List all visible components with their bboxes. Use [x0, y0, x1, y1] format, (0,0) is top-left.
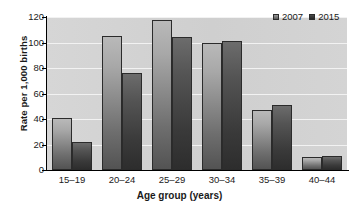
- y-axis-tick-label: 80: [20, 63, 44, 73]
- x-axis-tick-label: 35–39: [247, 175, 297, 185]
- y-axis-tick-mark: [42, 170, 46, 171]
- bar-2007-25-29: [152, 20, 172, 170]
- y-axis-tick-mark: [42, 145, 46, 146]
- y-axis-tick-mark: [42, 17, 46, 18]
- bar-group: [202, 17, 242, 170]
- legend-label: 2007: [282, 12, 303, 22]
- x-axis-tick-label: 40–44: [297, 175, 347, 185]
- x-axis-tick-label: 15–19: [47, 175, 97, 185]
- bars-layer: [47, 17, 347, 170]
- bar-2007-40-44: [302, 157, 322, 170]
- y-axis-tick-label: 20: [20, 140, 44, 150]
- bar-group: [52, 17, 92, 170]
- y-axis-tick-mark: [42, 43, 46, 44]
- bar-group: [302, 17, 342, 170]
- bar-2007-30-34: [202, 43, 222, 171]
- legend-swatch-icon: [273, 14, 279, 20]
- bar-2015-40-44: [322, 156, 342, 170]
- y-axis-tick-label: 0: [20, 165, 44, 175]
- y-axis-tick-mark: [42, 68, 46, 69]
- y-axis-tick-label: 100: [20, 38, 44, 48]
- bar-2015-15-19: [72, 142, 92, 170]
- y-axis-tick-mark: [42, 119, 46, 120]
- bar-2007-20-24: [102, 36, 122, 170]
- bar-chart: Rate per 1,000 births 020406080100120 15…: [0, 0, 359, 206]
- legend-swatch-icon: [309, 14, 315, 20]
- y-axis-tick-labels: 020406080100120: [20, 0, 44, 206]
- chart-legend: 20072015: [273, 12, 339, 22]
- y-axis-tick-label: 120: [20, 12, 44, 22]
- bar-group: [102, 17, 142, 170]
- legend-label: 2015: [318, 12, 339, 22]
- x-axis-tick-label: 25–29: [147, 175, 197, 185]
- legend-entry-2015[interactable]: 2015: [309, 12, 339, 22]
- bar-group: [152, 17, 192, 170]
- bar-group: [252, 17, 292, 170]
- bar-2007-15-19: [52, 118, 72, 170]
- x-axis-tick-label: 30–34: [197, 175, 247, 185]
- x-axis-tick-label: 20–24: [97, 175, 147, 185]
- legend-entry-2007[interactable]: 2007: [273, 12, 303, 22]
- bar-2007-35-39: [252, 110, 272, 170]
- y-axis-tick-mark: [42, 94, 46, 95]
- x-axis-line: [45, 170, 349, 171]
- y-axis-tick-label: 40: [20, 114, 44, 124]
- y-axis-tick-label: 60: [20, 89, 44, 99]
- x-axis-tick-labels: 15–1920–2425–2930–3435–3940–44: [47, 175, 347, 189]
- bar-2015-20-24: [122, 73, 142, 170]
- x-axis-title: Age group (years): [0, 190, 359, 201]
- bar-2015-35-39: [272, 105, 292, 170]
- bar-2015-25-29: [172, 37, 192, 170]
- bar-2015-30-34: [222, 41, 242, 170]
